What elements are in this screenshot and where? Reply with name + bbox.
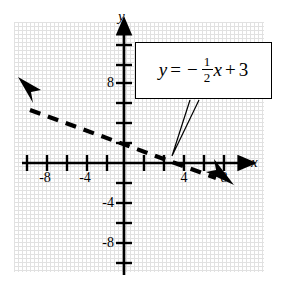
y-tick-label-8: 8 [92,75,114,91]
fraction-denominator: 2 [202,71,213,84]
y-tick-label-neg4: -4 [80,195,114,211]
callout-leader [172,100,199,156]
equation-variable: x [214,59,222,81]
fraction-numerator: 1 [202,55,213,68]
y-axis-label: y [118,8,125,25]
y-tick-label-neg8: -8 [80,235,114,251]
equation-plus: + [225,59,236,81]
equation-fraction: 1 2 [202,55,213,85]
x-axis-label: x [251,154,258,171]
x-axis [22,155,240,171]
line-arrow-left [18,77,41,103]
equation-lhs: y [159,59,167,81]
equation-minus: − [187,59,198,81]
x-tick-label-4: 4 [169,170,199,186]
x-tick-label-neg8: -8 [30,170,60,186]
y-axis [116,33,132,275]
equation-constant: 3 [239,59,249,81]
equation-equals: = [170,59,181,81]
equation-text: y = − 1 2 x + 3 [159,56,249,86]
graph-figure: y x -8 -4 4 8 8 -4 -8 y = − 1 2 x + 3 [0,0,285,283]
x-tick-label-8: 8 [209,170,239,186]
equation-callout-box: y = − 1 2 x + 3 [135,42,272,99]
x-tick-label-neg4: -4 [70,170,100,186]
